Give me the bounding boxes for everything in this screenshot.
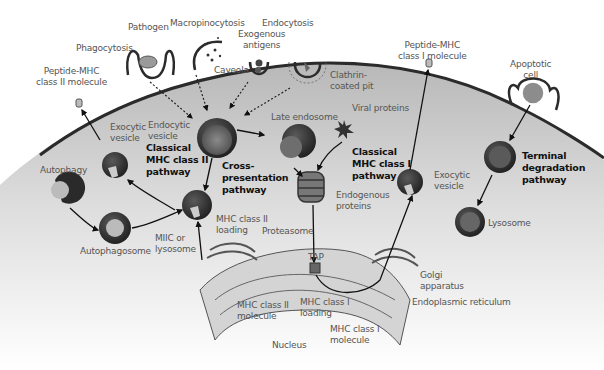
label-autophagosome: Autophagosome (80, 246, 151, 257)
mhc2-surface-molecule (76, 99, 82, 107)
label-endocytic-vesicle: Endocyticvesicle (148, 120, 190, 142)
pathway-classical-mhc-class-i: ClassicalMHC class Ipathway (352, 146, 411, 182)
autophagosome-icon (99, 212, 131, 244)
phagocytosis-cup-icon (127, 51, 174, 78)
terminal-degradation-vesicle-icon (484, 141, 516, 173)
label-viral-proteins: Viral proteins (352, 103, 409, 114)
label-clathrin-coated-pit: Clathrin-coated pit (330, 70, 373, 92)
label-endocytosis: Endocytosis (262, 18, 314, 29)
label-endoplasmic-reticulum: Endoplasmic reticulum (412, 297, 511, 308)
label-mhc-class-ii-loading: MHC class IIloading (216, 214, 268, 236)
label-caveola: Caveola (214, 65, 249, 76)
label-late-endosome: Late endosome (271, 112, 338, 123)
proteasome-icon (298, 172, 324, 202)
label-mhc-class-i-loading: MHC class Iloading (300, 297, 349, 319)
label-mhc-class-i-molecule: MHC class Imolecule (330, 324, 379, 346)
label-nucleus: Nucleus (272, 340, 306, 351)
label-golgi-apparatus: Golgiapparatus (420, 270, 464, 292)
label-macropinocytosis: Macropinocytosis (170, 18, 245, 29)
label-apoptotic-cell: Apoptoticcell (510, 59, 551, 81)
miic-lysosome-icon (182, 190, 212, 220)
label-exocytic-vesicle-right: Exocyticvesicle (434, 170, 470, 192)
label-phagocytosis: Phagocytosis (76, 43, 133, 54)
label-tap: TAP (308, 252, 324, 263)
label-exocytic-vesicle-left: Exocyticvesicle (110, 122, 146, 144)
label-peptide-mhc-class-i: Peptide-MHCclass I molecule (398, 40, 467, 62)
label-pathogen: Pathogen (128, 22, 169, 33)
label-proteasome: Proteasome (262, 226, 313, 237)
cytoplasm (0, 63, 604, 370)
label-endogenous-proteins: Endogenousproteins (336, 190, 389, 212)
pathway-terminal-degradation: Terminaldegradationpathway (522, 150, 585, 186)
label-exogenous-antigens: Exogenousantigens (238, 29, 285, 51)
pathway-cross-presentation: Cross-presentationpathway (222, 160, 288, 196)
lysosome-icon (455, 207, 485, 237)
label-mhc-class-ii-molecule: MHC class IImolecule (237, 300, 289, 322)
label-autophagy: Autophagy (40, 165, 87, 176)
tap-transporter-icon (310, 263, 320, 273)
label-peptide-mhc-class-ii: Peptide-MHCclass II molecule (36, 66, 107, 88)
label-lysosome: Lysosome (488, 218, 531, 229)
exocytic-vesicle-left-icon (102, 152, 128, 178)
label-miic-lysosome: MIIC orlysosome (155, 233, 196, 255)
pathway-classical-mhc-class-ii: ClassicalMHC class IIpathway (146, 142, 208, 178)
